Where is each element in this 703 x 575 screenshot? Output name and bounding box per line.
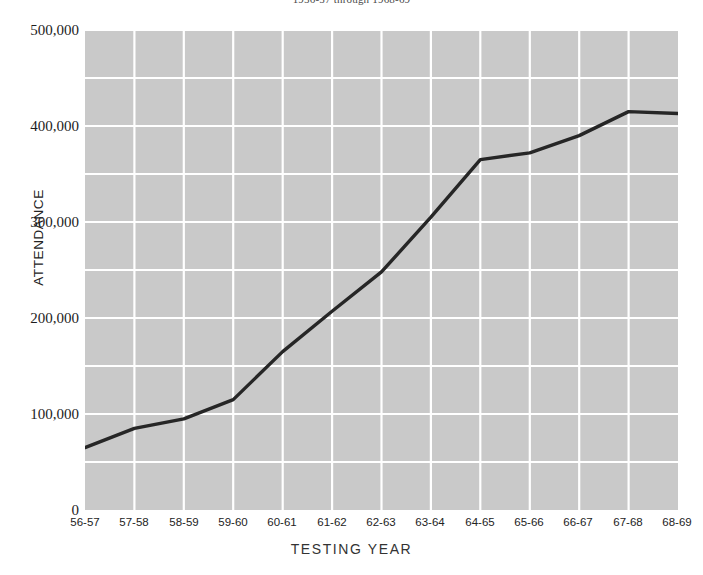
y-tick-label-200000: 200,000 (0, 310, 79, 327)
y-axis-title: ATTENDANCE (31, 138, 46, 338)
y-tick-label-400000: 400,000 (0, 118, 79, 135)
chart-figure: 1956-57 through 1968-69 ATTENDANCE 500,0… (0, 0, 703, 575)
y-tick-label-300000: 300,000 (0, 214, 79, 231)
x-tick-label-68-69: 68-69 (642, 516, 703, 528)
plot-area (85, 30, 678, 510)
chart-title: 1956-57 through 1968-69 (0, 0, 703, 5)
x-axis-title: TESTING YEAR (0, 541, 703, 557)
plot-svg (85, 30, 678, 510)
y-tick-label-100000: 100,000 (0, 406, 79, 423)
y-tick-label-500000: 500,000 (0, 22, 79, 39)
